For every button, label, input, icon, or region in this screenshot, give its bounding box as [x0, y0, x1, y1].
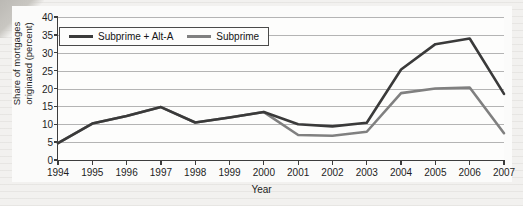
y-tick-label: 15 [42, 101, 53, 112]
x-tick-label: 2007 [493, 167, 515, 178]
x-tick-mark [92, 160, 93, 165]
y-tick-label: 10 [42, 119, 53, 130]
legend-label: Subprime + Alt-A [98, 31, 173, 42]
y-tick-label: 40 [42, 12, 53, 23]
x-tick-mark [160, 160, 161, 165]
x-tick-mark [298, 160, 299, 165]
chart-figure: Share of mortgages originated (percent) … [0, 0, 523, 206]
x-tick-label: 2002 [321, 167, 343, 178]
y-tick-label: 30 [42, 47, 53, 58]
legend-entry: Subprime + Alt-A [69, 31, 173, 42]
x-axis-title: Year [0, 184, 523, 195]
x-tick-label: 1997 [150, 167, 172, 178]
x-tick-label: 2006 [459, 167, 481, 178]
x-tick-label: 1998 [184, 167, 206, 178]
x-tick-mark [332, 160, 333, 165]
x-tick-label: 2004 [390, 167, 412, 178]
x-tick-mark [366, 160, 367, 165]
x-tick-label: 1994 [47, 167, 69, 178]
x-tick-mark [126, 160, 127, 165]
chart-legend: Subprime + Alt-ASubprime [59, 27, 269, 46]
legend-swatch [187, 35, 211, 38]
y-tick-label: 0 [47, 155, 53, 166]
x-tick-mark [435, 160, 436, 165]
x-tick-label: 2000 [253, 167, 275, 178]
y-tick-label: 35 [42, 29, 53, 40]
x-tick-mark [503, 160, 504, 165]
x-tick-label: 1995 [81, 167, 103, 178]
series-line [58, 38, 504, 143]
y-tick-label: 5 [47, 137, 53, 148]
x-tick-label: 2005 [424, 167, 446, 178]
x-tick-mark [195, 160, 196, 165]
x-tick-mark [263, 160, 264, 165]
x-tick-mark [400, 160, 401, 165]
x-tick-label: 2003 [356, 167, 378, 178]
x-tick-label: 1996 [115, 167, 137, 178]
y-axis-title: Share of mortgages originated (percent) [11, 0, 34, 129]
x-tick-label: 1999 [218, 167, 240, 178]
legend-entry: Subprime [187, 31, 259, 42]
y-tick-label: 25 [42, 65, 53, 76]
x-tick-mark [57, 160, 58, 165]
x-tick-mark [469, 160, 470, 165]
y-tick-label: 20 [42, 83, 53, 94]
x-tick-mark [229, 160, 230, 165]
x-tick-label: 2001 [287, 167, 309, 178]
legend-label: Subprime [216, 31, 259, 42]
legend-swatch [69, 35, 93, 38]
